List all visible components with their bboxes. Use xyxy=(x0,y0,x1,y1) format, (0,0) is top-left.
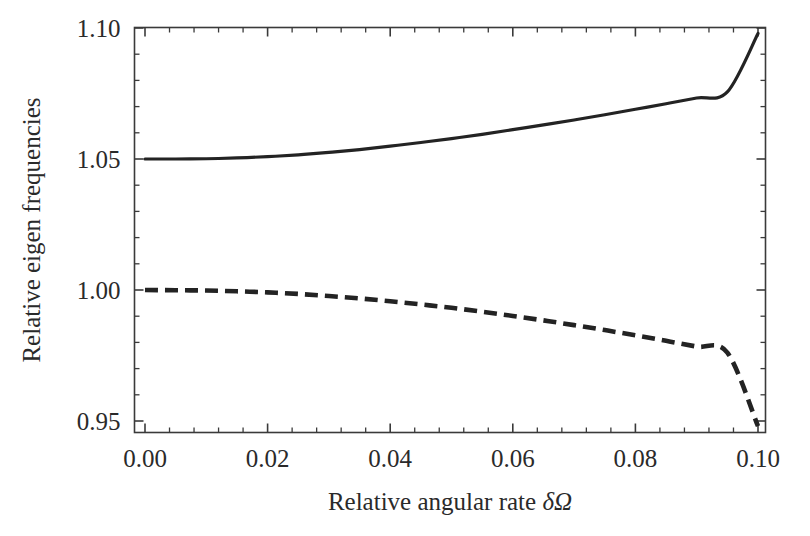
x-tick-label: 0.04 xyxy=(368,445,412,472)
x-tick-label: 0.02 xyxy=(246,445,290,472)
x-tick-label: 0.06 xyxy=(491,445,535,472)
x-tick-label: 0.08 xyxy=(614,445,658,472)
x-tick-label: 0.00 xyxy=(123,445,167,472)
y-tick-label: 1.00 xyxy=(77,277,121,304)
x-axis-title: Relative angular rate δΩ xyxy=(328,488,572,515)
x-tick-label: 0.10 xyxy=(736,445,780,472)
chart-canvas: 0.000.020.040.060.080.10 0.951.001.051.1… xyxy=(0,0,810,536)
figure-container: 0.000.020.040.060.080.10 0.951.001.051.1… xyxy=(0,0,810,536)
y-axis-title: Relative eigen frequencies xyxy=(18,97,45,362)
y-tick-label: 1.05 xyxy=(77,146,121,173)
y-tick-label: 1.10 xyxy=(77,15,121,42)
y-tick-label: 0.95 xyxy=(77,408,121,435)
